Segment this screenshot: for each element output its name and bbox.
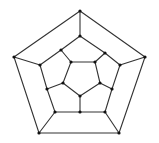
graph-edge — [100, 83, 112, 89]
dodecahedral-graph — [0, 0, 159, 143]
graph-edge — [105, 112, 119, 133]
graph-edge — [47, 89, 55, 112]
graph-vertex — [103, 51, 106, 54]
graph-vertex — [37, 131, 40, 134]
graph-edge — [14, 57, 40, 65]
graph-edge — [119, 57, 145, 133]
graph-vertex — [45, 87, 48, 90]
graph-vertex — [98, 81, 101, 84]
graph-edge — [61, 36, 80, 50]
graph-edge — [14, 57, 39, 133]
graph-edges — [14, 11, 145, 133]
graph-edge — [14, 11, 80, 57]
graph-edge — [40, 50, 61, 65]
graph-edge — [105, 89, 112, 112]
graph-vertex — [53, 110, 56, 113]
graph-edge — [80, 11, 145, 57]
graph-edge — [63, 62, 71, 83]
graph-vertex — [78, 110, 81, 113]
graph-edge — [63, 83, 80, 96]
graph-edge — [105, 53, 120, 65]
graph-vertex — [103, 110, 106, 113]
graph-vertex — [61, 81, 64, 84]
graph-vertex — [118, 63, 121, 66]
graph-vertex — [78, 9, 81, 12]
graph-edge — [40, 65, 47, 89]
graph-edge — [39, 112, 55, 133]
graph-vertex — [38, 63, 41, 66]
graph-vertex — [59, 48, 62, 51]
graph-edge — [61, 50, 71, 62]
graph-vertex — [143, 55, 146, 58]
graph-vertex — [69, 60, 72, 63]
graph-edge — [80, 36, 105, 53]
graph-edge — [47, 83, 63, 89]
graph-vertex — [78, 94, 81, 97]
graph-vertex — [12, 55, 15, 58]
graph-vertex — [117, 131, 120, 134]
graph-vertex — [93, 60, 96, 63]
graph-edge — [95, 53, 105, 62]
graph-vertex — [110, 87, 113, 90]
graph-edge — [95, 62, 100, 83]
graph-edge — [80, 83, 100, 96]
diagram-canvas — [0, 0, 159, 143]
graph-edge — [120, 57, 145, 65]
graph-vertex — [78, 34, 81, 37]
graph-edge — [112, 65, 120, 89]
